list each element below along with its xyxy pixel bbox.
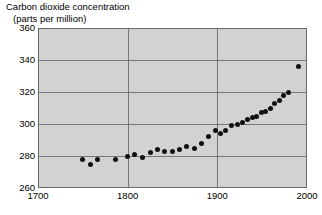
- gridline-horizontal: [38, 156, 307, 157]
- data-point: [148, 150, 153, 155]
- data-point: [162, 149, 167, 154]
- data-point: [155, 147, 160, 152]
- data-point: [240, 120, 245, 125]
- data-point: [192, 146, 197, 151]
- data-point: [125, 154, 130, 159]
- data-point: [235, 122, 240, 127]
- y-tick-label: 300: [1, 119, 35, 129]
- x-tick-label: 1800: [117, 191, 138, 201]
- data-point: [296, 64, 301, 69]
- gridline-horizontal: [38, 92, 307, 93]
- data-point: [268, 106, 273, 111]
- data-point: [184, 144, 189, 149]
- x-tick-label: 1700: [27, 191, 48, 201]
- y-tick-label: 320: [1, 87, 35, 97]
- gridline-vertical: [217, 28, 218, 188]
- data-point: [177, 147, 182, 152]
- plot-area: [38, 28, 307, 188]
- data-point: [88, 162, 93, 167]
- data-point: [229, 123, 234, 128]
- data-point: [286, 90, 291, 95]
- data-point: [277, 98, 282, 103]
- y-axis-tick-labels: 260280300320340360: [0, 28, 35, 188]
- gridline-vertical: [128, 28, 129, 188]
- x-tick-label: 2000: [296, 191, 317, 201]
- data-point: [113, 157, 118, 162]
- gridline-horizontal: [38, 60, 307, 61]
- data-point: [80, 157, 85, 162]
- gridline-horizontal: [38, 124, 307, 125]
- y-tick-label: 280: [1, 151, 35, 161]
- chart-title: Carbon dioxide concentration (parts per …: [6, 1, 130, 24]
- data-point: [223, 128, 228, 133]
- data-point: [206, 134, 211, 139]
- co2-concentration-chart: Carbon dioxide concentration (parts per …: [0, 0, 322, 215]
- data-point: [199, 141, 204, 146]
- chart-title-line-1: Carbon dioxide concentration: [6, 1, 130, 13]
- y-tick-label: 340: [1, 55, 35, 65]
- data-point: [140, 155, 145, 160]
- x-tick-label: 1900: [207, 191, 228, 201]
- data-point: [218, 131, 223, 136]
- x-axis-tick-labels: 1700180019002000: [38, 191, 307, 205]
- data-point: [170, 149, 175, 154]
- data-point: [95, 157, 100, 162]
- data-point: [254, 114, 259, 119]
- y-tick-label: 360: [1, 23, 35, 33]
